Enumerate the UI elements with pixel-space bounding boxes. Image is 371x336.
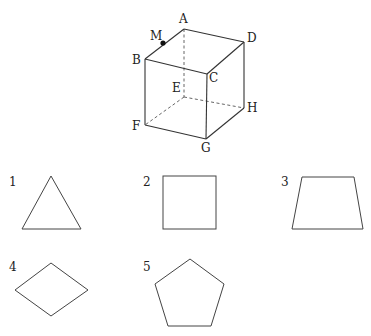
edge-CG xyxy=(206,74,207,139)
option-2-number: 2 xyxy=(143,175,151,189)
option-2[interactable]: 2 xyxy=(143,175,216,229)
option-5-number: 5 xyxy=(143,260,151,274)
label-g: G xyxy=(201,141,211,155)
option-3-number: 3 xyxy=(281,175,289,189)
label-f: F xyxy=(132,119,140,133)
triangle-shape xyxy=(22,176,81,229)
edge-AD xyxy=(184,29,244,42)
label-c: C xyxy=(209,71,218,85)
diagram-canvas: A M B D C E H F G 1 2 3 4 5 xyxy=(0,0,371,336)
edge-GH xyxy=(206,108,244,139)
label-h: H xyxy=(247,101,257,115)
edge-EH-hidden xyxy=(184,97,244,108)
label-b: B xyxy=(132,53,141,67)
option-4[interactable]: 4 xyxy=(9,260,88,316)
edge-EF-hidden xyxy=(145,97,184,125)
trapezoid-shape xyxy=(292,177,363,229)
pentagon-shape xyxy=(155,259,224,326)
label-e: E xyxy=(172,81,181,95)
option-5[interactable]: 5 xyxy=(143,259,224,326)
option-1[interactable]: 1 xyxy=(9,175,81,229)
edge-FG xyxy=(145,125,206,139)
label-a: A xyxy=(178,12,188,26)
option-1-number: 1 xyxy=(9,175,17,189)
rhombus-shape xyxy=(15,263,88,316)
label-d: D xyxy=(247,31,257,45)
edge-CD xyxy=(207,42,244,74)
option-4-number: 4 xyxy=(9,260,17,274)
label-m: M xyxy=(150,29,162,43)
edge-BC xyxy=(145,59,207,74)
cube-figure: A M B D C E H F G xyxy=(132,12,257,155)
option-3[interactable]: 3 xyxy=(281,175,363,229)
square-shape xyxy=(163,176,216,229)
